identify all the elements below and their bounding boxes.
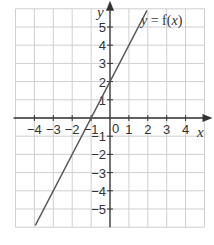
- axes: [14, 1, 213, 227]
- x-tick-label: 1: [125, 122, 132, 137]
- x-tick-label: −2: [65, 122, 80, 137]
- y-tick-label: −5: [91, 202, 106, 217]
- y-axis-label: y: [95, 4, 104, 20]
- function-label: y = f(x): [139, 13, 183, 29]
- y-tick-label: 3: [99, 56, 106, 71]
- x-tick-label: −3: [46, 122, 61, 137]
- x-tick-label: 4: [182, 122, 189, 137]
- y-tick-label: −1: [91, 129, 106, 144]
- function-graph: −4−3−2−11234−5−4−3−2−1123450 y = f(x) y …: [0, 0, 214, 245]
- y-tick-label: 4: [99, 38, 106, 53]
- y-tick-label: −2: [91, 147, 106, 162]
- x-axis-arrow-icon: [203, 114, 213, 122]
- y-axis-arrow-icon: [106, 1, 114, 11]
- y-tick-label: −4: [91, 184, 106, 199]
- y-tick-label: −3: [91, 166, 106, 181]
- y-tick-label: 2: [99, 75, 106, 90]
- y-tick-label: 5: [99, 20, 106, 35]
- x-tick-label: −4: [27, 122, 42, 137]
- x-axis-label: x: [196, 124, 204, 140]
- origin-label: 0: [112, 121, 119, 136]
- x-tick-label: 2: [144, 122, 151, 137]
- x-tick-label: 3: [163, 122, 170, 137]
